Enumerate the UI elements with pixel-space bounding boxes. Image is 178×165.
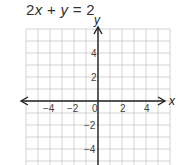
x-tick-label: 4 — [144, 103, 150, 114]
x-axis-label: x — [168, 94, 176, 108]
y-tick-label: 2 — [91, 72, 97, 83]
x-tick-label: −4 — [43, 103, 55, 114]
y-tick-label: −2 — [84, 120, 96, 131]
x-tick-label: 0 — [92, 103, 98, 114]
x-tick-label: −2 — [67, 103, 79, 114]
y-tick-label: 4 — [91, 48, 97, 59]
y-tick-label: −4 — [84, 144, 96, 155]
x-tick-label: 2 — [120, 103, 126, 114]
y-axis-label: y — [93, 13, 101, 27]
coordinate-grid: x y −4 −2 0 2 4 4 2 −2 −4 — [0, 0, 178, 165]
